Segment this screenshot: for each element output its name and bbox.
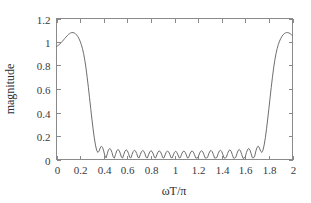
y-tick-label: 0.2 [37, 131, 51, 143]
y-tick-label: 0.4 [37, 108, 51, 120]
x-tick-label: 1.8 [263, 164, 277, 176]
y-axis-title: magnitude [3, 64, 17, 115]
y-tick-label: 1.2 [37, 14, 51, 26]
x-tick-label: 1.4 [216, 164, 230, 176]
y-tick-label: 0 [45, 155, 51, 167]
x-tick-label: 1.2 [192, 164, 206, 176]
y-tick-label: 1 [45, 37, 51, 49]
x-tick-label: 0.4 [98, 164, 112, 176]
x-axis-title: ωT/π [162, 184, 187, 198]
y-tick-label: 0.6 [37, 84, 51, 96]
x-tick-label: 0.8 [145, 164, 159, 176]
x-tick-label: 1.6 [239, 164, 253, 176]
x-tick-label: 0 [55, 164, 61, 176]
frequency-response-chart: 00.20.40.60.811.21.41.61.82 00.20.40.60.… [0, 0, 311, 203]
x-tick-label: 1 [173, 164, 179, 176]
x-tick-label: 2 [291, 164, 297, 176]
x-tick-label: 0.6 [121, 164, 135, 176]
figure-container: 00.20.40.60.811.21.41.61.82 00.20.40.60.… [0, 0, 311, 203]
x-tick-label: 0.2 [74, 164, 88, 176]
y-tick-label: 0.8 [37, 60, 51, 72]
